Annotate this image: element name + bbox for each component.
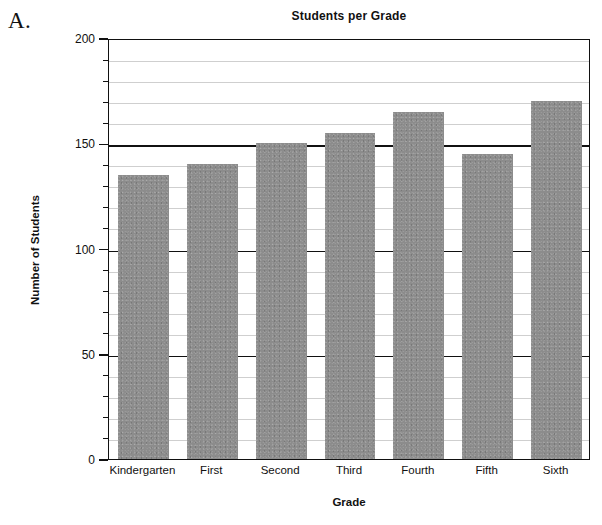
x-axis: KindergartenFirstSecondThirdFourthFifthS… [108,464,590,484]
x-tick-label: Kindergarten [109,464,175,476]
bar[interactable] [118,175,169,459]
bar[interactable] [462,154,513,459]
x-tick-label: Second [261,464,300,476]
y-tick-major [99,144,108,146]
bar[interactable] [325,133,376,459]
y-tick-label: 100 [75,243,95,257]
bars-layer [109,40,589,459]
y-tick-label: 50 [82,348,95,362]
plot-area [108,39,590,460]
x-tick-label: First [200,464,222,476]
chart-title: Students per Grade [108,9,590,23]
x-tick-label: Third [336,464,362,476]
y-tick-label: 200 [75,32,95,46]
bar[interactable] [187,164,238,459]
x-axis-title: Grade [108,496,590,508]
y-tick-label: 150 [75,137,95,151]
y-tick-major [99,459,108,461]
y-axis: 050100150200 [0,39,108,460]
y-tick-label: 0 [88,453,95,467]
y-tick-major [99,354,108,356]
x-tick-label: Sixth [543,464,569,476]
y-tick-major [99,249,108,251]
y-tick-major [99,38,108,40]
bar[interactable] [531,101,582,459]
bar[interactable] [256,143,307,459]
bar[interactable] [393,112,444,459]
figure-label: A. [8,8,31,34]
x-tick-label: Fourth [401,464,434,476]
x-tick-label: Fifth [476,464,498,476]
